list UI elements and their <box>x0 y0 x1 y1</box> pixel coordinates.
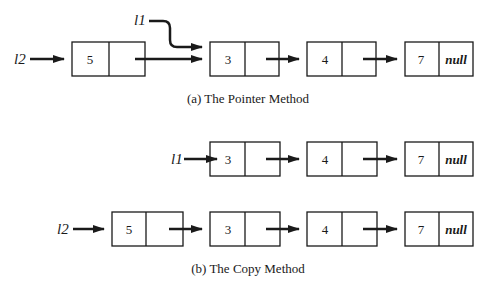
node-value: 3 <box>225 152 232 167</box>
node-null: null <box>445 152 467 167</box>
caption-copy-method: (b) The Copy Method <box>191 261 305 276</box>
node-value: 5 <box>126 222 133 237</box>
node-value: 3 <box>225 222 232 237</box>
list-node: 7 null <box>405 212 473 246</box>
node-value: 4 <box>322 152 329 167</box>
copy-method-diagram: l1 3 4 7 null l2 5 <box>57 142 473 276</box>
var-label-l2-a: l2 <box>14 51 26 67</box>
node-value: 4 <box>322 52 329 67</box>
node-value: 4 <box>322 222 329 237</box>
list-node: 7 null <box>405 42 473 76</box>
node-value: 7 <box>418 52 425 67</box>
node-value: 3 <box>225 52 232 67</box>
var-label-l1-a: l1 <box>134 12 146 28</box>
node-null: null <box>445 52 467 67</box>
node-value: 7 <box>418 222 425 237</box>
pointer-method-diagram: l2 l1 5 3 4 7 null <box>14 12 473 106</box>
node-value: 5 <box>87 52 94 67</box>
linked-list-diagram: l2 l1 5 3 4 7 null <box>0 0 497 292</box>
node-null: null <box>445 222 467 237</box>
curved-arrow-icon <box>149 21 202 47</box>
caption-pointer-method: (a) The Pointer Method <box>187 91 310 106</box>
list-node: 5 <box>72 42 145 76</box>
var-label-l2-b: l2 <box>57 221 69 237</box>
node-value: 7 <box>418 152 425 167</box>
list-node: 7 null <box>405 142 473 176</box>
var-label-l1-b: l1 <box>171 151 183 167</box>
